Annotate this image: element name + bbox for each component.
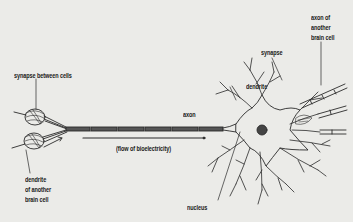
label-dendrite: dendrite: [246, 83, 267, 91]
other-axon: [296, 84, 347, 134]
label-axon: axon: [183, 111, 196, 119]
label-dendrite-of-another-line2: of another: [25, 186, 51, 194]
cell-body: [236, 95, 308, 166]
label-nucleus: nucleus: [187, 204, 207, 212]
neuron-diagram: [0, 0, 353, 222]
label-synapse: synapse: [261, 49, 283, 57]
nucleus-shape: [257, 125, 267, 135]
label-synapse-between-cells: synapse between cells: [14, 72, 72, 80]
synapse-terminals: [12, 109, 67, 149]
label-axon-of-another-line3: brain cell: [311, 34, 334, 42]
dendrites: [208, 58, 330, 204]
label-axon-of-another-line2: another: [311, 24, 331, 32]
label-dendrite-of-another-line3: brain cell: [25, 196, 48, 204]
label-dendrite-of-another-line1: dendrite: [25, 176, 46, 184]
label-flow-of-bioelectricity: (flow of bioelectricity): [116, 145, 171, 153]
label-axon-of-another-line1: axon of: [311, 14, 330, 22]
axon: [66, 124, 236, 132]
